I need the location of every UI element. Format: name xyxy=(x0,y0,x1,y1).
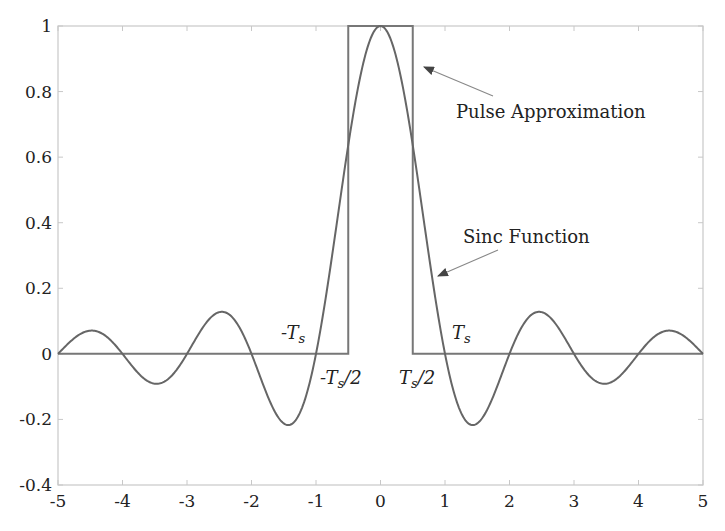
pulse-approximation-line xyxy=(58,26,703,354)
ts-label: Ts xyxy=(452,322,471,346)
x-tick-label: 1 xyxy=(440,491,451,511)
pulse-arrow-icon xyxy=(424,67,493,96)
x-tick-label: 4 xyxy=(633,491,644,511)
y-tick-label: 0 xyxy=(41,344,52,364)
y-tick-label: -0.2 xyxy=(19,409,52,429)
y-tick-label: 0.6 xyxy=(25,147,52,167)
x-tick-label: 5 xyxy=(698,491,709,511)
x-tick-label: -4 xyxy=(114,491,131,511)
y-tick-label: 0.4 xyxy=(25,213,52,233)
x-tick-label: 0 xyxy=(375,491,386,511)
sinc-function-label: Sinc Function xyxy=(463,226,590,247)
neg-ts-label: -Ts xyxy=(281,322,305,346)
x-tick-label: 2 xyxy=(504,491,515,511)
y-tick-label: 0.2 xyxy=(25,278,52,298)
sinc-pulse-chart: -5-4-3-2-1012345-0.4-0.200.20.40.60.81 P… xyxy=(0,0,725,531)
neg-half-ts-label: -Ts/2 xyxy=(320,367,362,391)
y-tick-label: 0.8 xyxy=(25,82,52,102)
y-tick-label: 1 xyxy=(41,16,52,36)
x-tick-label: -5 xyxy=(50,491,67,511)
pulse-approximation-label: Pulse Approximation xyxy=(456,101,646,122)
sinc-arrow-icon xyxy=(438,250,498,276)
x-tick-label: -2 xyxy=(243,491,260,511)
axis-ticks xyxy=(58,26,703,485)
x-tick-label: 3 xyxy=(569,491,580,511)
y-tick-label: -0.4 xyxy=(19,475,52,495)
sinc-function-curve xyxy=(58,26,703,425)
half-ts-label: Ts/2 xyxy=(399,367,435,391)
x-tick-label: -3 xyxy=(179,491,196,511)
axis-tick-labels: -5-4-3-2-1012345-0.4-0.200.20.40.60.81 xyxy=(19,16,708,511)
plot-frame xyxy=(58,26,703,485)
x-tick-label: -1 xyxy=(308,491,325,511)
